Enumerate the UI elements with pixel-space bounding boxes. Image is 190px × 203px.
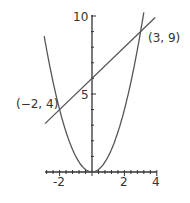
annotation-point-3-9: (3, 9) (148, 32, 180, 44)
parabola-curve (44, 12, 144, 172)
x-tick-label-2: 2 (120, 176, 128, 188)
annotation-point-neg2-4: (−2, 4) (16, 98, 58, 110)
x-tick-label-neg2: -2 (53, 176, 65, 188)
y-tick-label-10: 10 (73, 11, 88, 23)
y-tick-label-5: 5 (81, 89, 89, 101)
x-tick-label-4: 4 (152, 176, 160, 188)
line-curve (45, 18, 155, 124)
